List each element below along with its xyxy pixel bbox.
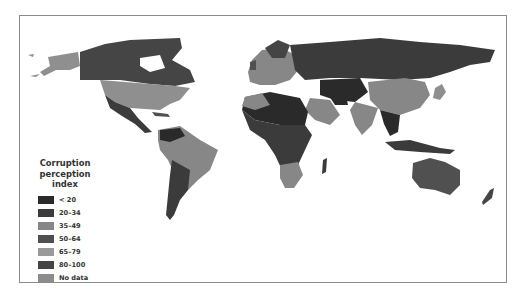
region-southern-cone (166, 160, 190, 220)
region-canada (80, 38, 195, 86)
legend-item: No data (38, 272, 107, 285)
legend-title: Corruption perception index (27, 158, 103, 190)
legend-swatch (38, 261, 54, 269)
region-new-zealand (482, 188, 494, 205)
legend-title-line1: Corruption (27, 158, 103, 169)
legend-swatch (38, 222, 54, 230)
legend-swatch (38, 248, 54, 256)
region-alaska (40, 52, 80, 76)
legend-label: 20–34 (59, 209, 81, 217)
legend-item: 20–34 (38, 207, 107, 220)
legend-label: 80–100 (59, 261, 85, 269)
region-greenland (180, 22, 210, 42)
region-india (350, 102, 378, 135)
region-madagascar (322, 158, 327, 174)
legend-swatch (38, 209, 54, 217)
legend-item: 80–100 (38, 259, 107, 272)
legend-item: 35–49 (38, 220, 107, 233)
region-russia (290, 38, 495, 80)
region-aleutians (28, 54, 40, 77)
legend-label: 35–49 (59, 222, 81, 230)
legend-label: 65–79 (59, 248, 81, 256)
legend-item: < 20 (38, 194, 107, 207)
region-uk (250, 60, 256, 70)
legend-swatch (38, 274, 54, 282)
region-southern-africa (280, 162, 303, 188)
region-indonesia (385, 140, 455, 154)
legend-title-line2: perception index (27, 169, 103, 190)
legend: Corruption perception index < 20 20–34 3… (27, 158, 107, 285)
legend-label: No data (59, 274, 88, 282)
region-caribbean (152, 112, 170, 117)
legend-items: < 20 20–34 35–49 50–64 65–79 80–100 No d… (38, 194, 107, 285)
region-australia (412, 158, 460, 195)
region-japan (433, 84, 446, 100)
legend-swatch (38, 235, 54, 243)
legend-label: 50–64 (59, 235, 81, 243)
legend-item: 65–79 (38, 246, 107, 259)
legend-swatch (38, 196, 54, 204)
legend-label: < 20 (59, 196, 76, 204)
legend-item: 50–64 (38, 233, 107, 246)
